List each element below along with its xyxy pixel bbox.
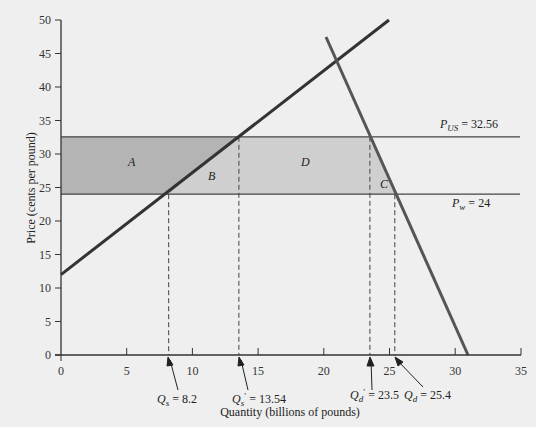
y-ticks [55, 20, 61, 355]
demand-curve [326, 37, 468, 355]
x-tick-label: 5 [124, 364, 130, 378]
p-w-label: Pw = 24 [451, 196, 490, 212]
y-tick-label: 30 [39, 147, 51, 161]
x-tick-label: 0 [58, 364, 64, 378]
y-tick-label: 50 [39, 13, 51, 27]
label-b: B [208, 169, 216, 183]
p-us-label: PUS = 32.56 [439, 117, 498, 133]
qs-label: Qs = 8.2 [157, 392, 197, 408]
label-d: D [300, 155, 310, 169]
y-tick-label: 35 [39, 114, 51, 128]
y-axis-title: Price (cents per pound) [24, 132, 38, 244]
y-tick-label: 5 [45, 315, 51, 329]
y-tick-label: 0 [45, 348, 51, 362]
y-tick-label: 15 [39, 248, 51, 262]
x-tick-label: 30 [449, 364, 461, 378]
x-tick-label: 25 [384, 364, 396, 378]
qd-prime-label: Qd′ = 23.5 [350, 387, 399, 404]
y-tick-label: 10 [39, 281, 51, 295]
y-tick-label: 40 [39, 80, 51, 94]
y-tick-label: 20 [39, 214, 51, 228]
x-axis-title: Quantity (billions of pounds) [220, 405, 360, 419]
x-tick-label: 10 [186, 364, 198, 378]
label-a: A [127, 155, 136, 169]
qd-label: Qd = 25.4 [404, 388, 451, 404]
chart: 0 5 10 15 20 25 30 35 40 45 50 0 5 10 15… [0, 0, 536, 427]
label-c: C [380, 177, 389, 191]
y-tick-label: 45 [39, 47, 51, 61]
y-tick-label: 25 [39, 181, 51, 195]
x-tick-label: 15 [252, 364, 264, 378]
x-tick-label: 35 [515, 364, 527, 378]
x-tick-label: 20 [318, 364, 330, 378]
